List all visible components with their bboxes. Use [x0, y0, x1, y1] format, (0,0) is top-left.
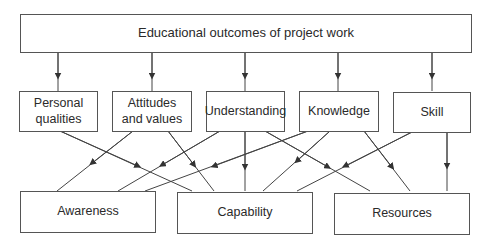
title-box: Educational outcomes of project work — [20, 14, 472, 53]
node-resources: Resources — [334, 193, 470, 235]
node-personal-qualities: Personal qualities — [19, 91, 98, 132]
node-knowledge: Knowledge — [299, 91, 379, 132]
node-capability: Capability — [177, 192, 313, 234]
node-attitudes-and-values: Attitudes and values — [112, 91, 192, 132]
node-label: Awareness — [57, 204, 119, 220]
node-label: Understanding — [205, 104, 286, 120]
node-understanding: Understanding — [206, 91, 285, 132]
node-skill: Skill — [393, 92, 471, 133]
node-label: Attitudes and values — [122, 96, 182, 127]
node-label: Skill — [421, 105, 444, 121]
node-label: Personal qualities — [34, 96, 83, 127]
node-label: Resources — [372, 206, 432, 222]
node-label: Capability — [218, 205, 273, 221]
node-label: Knowledge — [308, 104, 370, 120]
title-label: Educational outcomes of project work — [138, 25, 354, 41]
node-awareness: Awareness — [20, 191, 156, 233]
